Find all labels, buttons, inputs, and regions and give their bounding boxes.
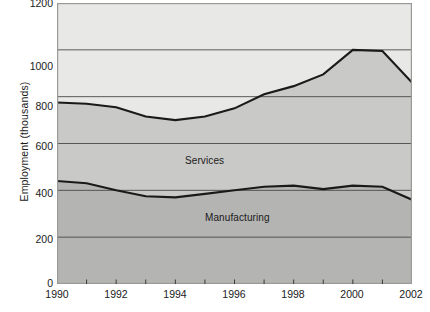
y-tick-label-0: 0 bbox=[22, 278, 53, 288]
x-tick-label-1990: 1990 bbox=[37, 288, 77, 300]
series-label-manufacturing: Manufacturing bbox=[205, 212, 270, 223]
y-tick-1200: 1200 bbox=[22, 0, 53, 8]
x-tick-label-1998: 1998 bbox=[273, 288, 313, 300]
y-tick-label-400: 400 bbox=[22, 188, 53, 198]
x-tick-label-2000: 2000 bbox=[332, 288, 372, 300]
manufacturing-area-band bbox=[57, 181, 412, 284]
y-tick-800: 800 bbox=[22, 101, 53, 111]
x-tick-1996: 1996 bbox=[214, 288, 254, 300]
x-tick-label-1992: 1992 bbox=[96, 288, 136, 300]
x-tick-1998: 1998 bbox=[273, 288, 313, 300]
y-tick-label-1000: 1000 bbox=[22, 61, 53, 71]
y-tick-600: 600 bbox=[22, 141, 53, 151]
x-tick-2002: 2002 bbox=[391, 288, 430, 300]
x-tick-1992: 1992 bbox=[96, 288, 136, 300]
series-label-services: Services bbox=[185, 155, 224, 166]
x-tick-label-1996: 1996 bbox=[214, 288, 254, 300]
y-tick-label-800: 800 bbox=[22, 101, 53, 111]
y-tick-label-200: 200 bbox=[22, 234, 53, 244]
y-tick-400: 400 bbox=[22, 188, 53, 198]
chart-figure: Employment (thousands) 1200 1000 800 600… bbox=[0, 0, 430, 312]
x-tick-label-1994: 1994 bbox=[155, 288, 195, 300]
x-tick-2000: 2000 bbox=[332, 288, 372, 300]
y-tick-200: 200 bbox=[22, 234, 53, 244]
y-tick-1000: 1000 bbox=[22, 61, 53, 71]
y-tick-label-1200: 1200 bbox=[22, 0, 53, 8]
plot-area bbox=[57, 3, 412, 284]
x-tick-1990: 1990 bbox=[37, 288, 77, 300]
x-tick-label-2002: 2002 bbox=[391, 288, 430, 300]
y-tick-0: 0 bbox=[22, 278, 53, 288]
x-tick-1994: 1994 bbox=[155, 288, 195, 300]
y-tick-label-600: 600 bbox=[22, 141, 53, 151]
